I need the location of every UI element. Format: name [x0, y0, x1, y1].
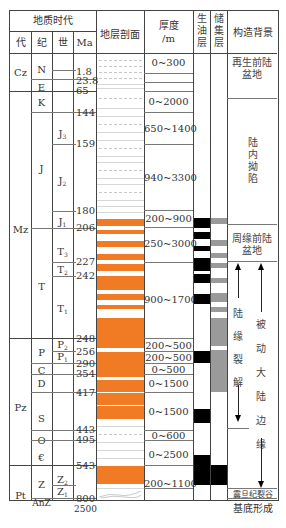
reservoir-band: [211, 318, 227, 346]
header-reservoir-layer: 储集层: [212, 13, 226, 49]
arrow-shaft: [238, 270, 239, 298]
sandstone-band: [97, 294, 144, 300]
age-206: 206: [76, 222, 95, 233]
thickness-z: 200~1100: [144, 478, 193, 489]
epoch-boundary: [52, 144, 76, 145]
epoch-boundary: [52, 262, 76, 263]
age-180: 180: [76, 205, 95, 216]
header-era: 代: [10, 37, 31, 48]
period-p: P: [31, 347, 52, 358]
age-495: 495: [76, 434, 95, 445]
reservoir-band: [211, 293, 227, 302]
period-d: D: [31, 378, 52, 389]
sandstone-band: [97, 264, 144, 271]
sandstone-band-sinian: [97, 466, 144, 484]
epoch-j3: J3: [52, 128, 73, 142]
header-period: 纪: [31, 37, 52, 48]
thickness-t1: 900~1700: [144, 294, 193, 305]
epoch-boundary: [52, 485, 76, 486]
tectonic-divider: [227, 98, 277, 99]
source-rock-band: [194, 409, 210, 423]
sandstone-band: [97, 241, 144, 247]
reservoir-band: [211, 240, 227, 246]
period-z: Z: [31, 479, 52, 490]
sandstone-band: [97, 318, 144, 348]
age-227: 227: [76, 256, 95, 267]
reservoir-band: [211, 253, 227, 258]
era-cz: Cz: [10, 67, 31, 78]
epoch-z1: Z1: [52, 486, 73, 500]
age-242: 242: [76, 270, 95, 281]
sandstone-band: [97, 352, 144, 377]
sandstone-band: [97, 219, 144, 226]
period-t: T: [31, 281, 52, 292]
epoch-j1: J1: [52, 216, 73, 230]
age-543: 543: [76, 460, 95, 471]
arrow-shaft: [261, 438, 262, 482]
arrow-up-icon: [258, 263, 264, 270]
source-rock-band: [194, 455, 210, 485]
col-line: [227, 10, 228, 500]
thickness-row-line: [144, 262, 193, 263]
epoch-boundary: [52, 276, 76, 277]
thickness-row-line: [144, 144, 193, 145]
thickness-d: 0~1500: [144, 378, 193, 389]
source-rock-band: [194, 246, 210, 251]
tectonic-peripheral-foreland: 周缘前陆盆地: [229, 233, 275, 257]
period-e: E: [31, 82, 52, 93]
source-rock-band: [194, 294, 210, 304]
tectonic-divider: [227, 224, 277, 225]
age-159: 159: [76, 138, 95, 149]
source-rock-band: [194, 351, 210, 363]
header-source-layer: 生油层: [195, 13, 209, 49]
thickness-o: 0~600: [144, 430, 193, 441]
thickness-row-line: [144, 210, 193, 211]
header-epoch: 世: [52, 37, 73, 48]
sandstone-band: [97, 393, 144, 405]
thickness-j3: 650~1400: [144, 123, 193, 134]
epoch-p1: P1: [52, 351, 73, 365]
thickness-row-line: [144, 112, 193, 113]
thickness-k: 0~2000: [144, 96, 193, 107]
source-rock-band: [194, 218, 210, 228]
header-section: 地层剖面: [96, 29, 144, 40]
thickness-row-line: [144, 227, 193, 228]
source-rock-band: [194, 232, 210, 239]
col-line: [144, 10, 145, 500]
age-248: 248: [76, 333, 95, 344]
period-k: K: [31, 97, 52, 108]
thickness-row-line: [144, 73, 193, 74]
era-pt: Pt: [10, 490, 31, 501]
sandstone-band: [97, 406, 144, 419]
thickness-n: 0~300: [144, 57, 193, 68]
arrow-down-icon: [235, 415, 241, 422]
epoch-boundary: [52, 351, 76, 352]
reservoir-band: [211, 218, 227, 224]
thickness-row-line: [144, 91, 193, 92]
tectonic-intracontinental-depression: 陆内拗陷: [246, 137, 260, 185]
thickness-row-line: [144, 465, 193, 466]
reservoir-band: [211, 307, 227, 312]
period-s: S: [31, 413, 52, 424]
age-354: 354: [76, 368, 95, 379]
age-65: 65: [76, 85, 89, 96]
reservoir-band: [211, 278, 227, 283]
age-2500: 2500: [74, 504, 97, 515]
period-anz: AnZ: [30, 498, 53, 509]
col-line: [193, 10, 194, 500]
epoch-t1: T1: [52, 303, 73, 317]
thickness-c: 0~500: [144, 364, 193, 375]
tectonic-divider: [227, 261, 277, 262]
period-j: J: [31, 163, 52, 174]
reservoir-band: [211, 263, 227, 268]
thickness-row-line: [144, 82, 193, 83]
tectonic-divider: [227, 428, 249, 429]
arrow-down-icon: [258, 481, 264, 488]
sandstone-band: [97, 380, 144, 392]
thickness-row-line: [144, 392, 193, 393]
thickness-p2: 200~500: [144, 340, 193, 351]
age-256: 256: [76, 346, 95, 357]
source-rock-band: [194, 274, 210, 283]
epoch-boundary: [52, 70, 76, 71]
era-mz: Mz: [10, 224, 31, 235]
